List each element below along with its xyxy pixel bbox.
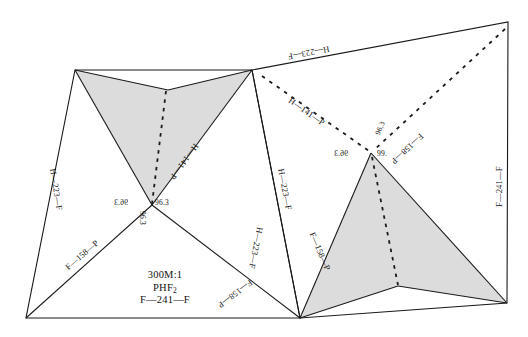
angle-label-left-vertex-right: 96.3: [155, 199, 169, 207]
angle-label-left-vertex-bottom: 96.3: [139, 211, 147, 225]
caption-bond: F—241—F: [105, 295, 225, 306]
right-dashed-ray-right: [373, 29, 505, 151]
caption-formula: PHF2: [105, 283, 225, 294]
caption-formula-text: PHF: [153, 282, 173, 293]
left-shaded-wedge: [75, 70, 252, 205]
caption-scale: 300M:1: [105, 270, 225, 281]
angle-label-right-vertex-right: 99.: [377, 150, 387, 158]
right-shaded-wedge: [300, 153, 507, 318]
diagram-figure: H—223—F F—158—P H—141—P F—158—P H—223—F …: [0, 0, 528, 337]
diagram-canvas: [0, 0, 528, 337]
angle-label-left-vertex-left: 96.3: [114, 199, 128, 207]
caption-formula-subscript: 2: [173, 286, 177, 295]
edge-label-right-outer: F—241—F: [495, 166, 504, 207]
caption-block: 300M:1 PHF2 F—241—F: [105, 270, 225, 308]
angle-label-right-vertex-left: 96.3: [334, 150, 348, 158]
